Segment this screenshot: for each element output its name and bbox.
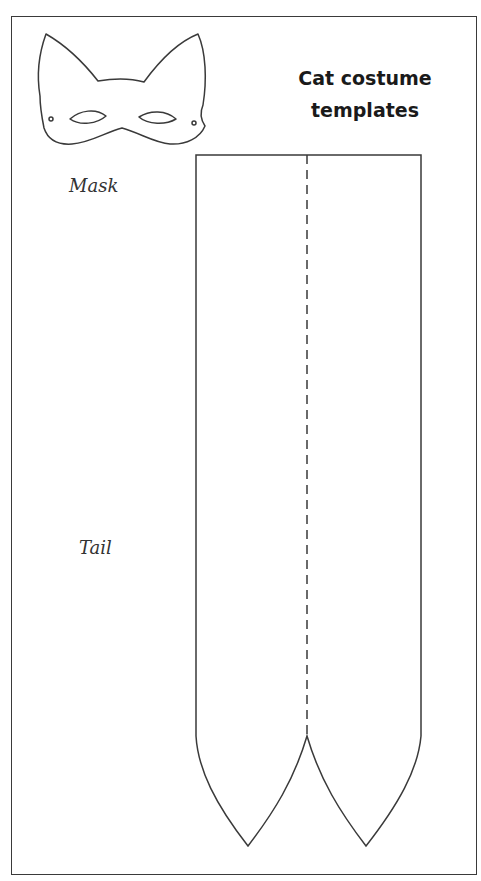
mask-label: Mask [69,175,118,196]
left-eye-hole [70,111,106,123]
page-title-line-1: Cat costume [280,62,450,94]
mask-outline [38,34,205,144]
cat-mask-template [38,34,205,144]
page-title-line-2: templates [280,94,450,126]
page-title: Cat costume templates [280,62,450,126]
right-tie-hole [192,121,196,125]
right-eye-hole [139,112,176,123]
tail-outline [196,155,421,846]
left-tie-hole [49,117,53,121]
tail-template [196,155,421,846]
tail-label: Tail [79,537,112,558]
templates-drawing [0,0,481,881]
